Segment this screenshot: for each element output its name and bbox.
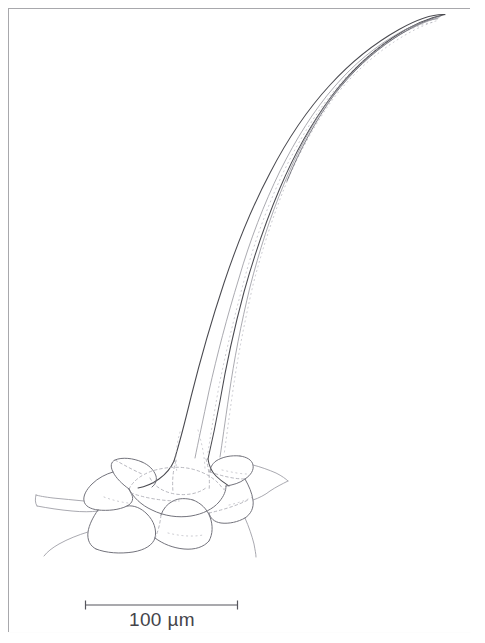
- epidermal-cell-lower-left-floor: [96, 538, 155, 553]
- trichome-line-drawing: [0, 0, 485, 643]
- epidermal-cell-right-margin: [245, 518, 256, 557]
- figure-plate: 100 µm: [0, 0, 485, 643]
- epidermal-cell-right-lower-floor: [209, 513, 245, 523]
- trichome-shaft: [174, 15, 445, 461]
- epidermal-cell-lower-left-right: [127, 506, 156, 538]
- epidermal-hidden-wall-upper-left: [115, 460, 142, 474]
- shaft-lumen-left: [195, 19, 438, 458]
- epidermal-cell-center-lower: [155, 538, 209, 549]
- base-stipple-right: [198, 430, 205, 471]
- shaft-outer-wall-left: [174, 15, 445, 461]
- epidermal-cell-bottom-left: [44, 532, 88, 556]
- epidermal-cell-center-lower-right: [193, 500, 212, 541]
- shaft-stipple-outer: [208, 23, 432, 454]
- base-shaft-hidden-left: [173, 461, 176, 492]
- epidermal-cell-far-left-top: [36, 495, 84, 501]
- epidermal-stipple-right-lower: [229, 496, 255, 505]
- epidermal-cell-upper-left: [111, 458, 142, 489]
- shaft-lumen-right: [220, 18, 439, 457]
- epidermal-cell-far-right-bottom: [253, 481, 288, 500]
- epidermal-stipple-right: [222, 470, 248, 474]
- epidermal-cell-far-left-edge: [35, 495, 37, 506]
- epidermal-cell-lower-left: [88, 510, 98, 549]
- scale-bar-label: 100 µm: [85, 609, 239, 631]
- epidermal-cell-rosette: [35, 456, 288, 557]
- epidermal-cell-left-lower: [98, 489, 133, 510]
- shaft-stipple-inner: [224, 21, 436, 455]
- epidermal-cell-right-lower: [245, 479, 253, 518]
- epidermal-stipple-left: [104, 497, 128, 503]
- base-socket-collar: [150, 478, 207, 495]
- epidermal-cell-center-lower-top: [161, 499, 193, 515]
- epidermal-cell-far-right-top: [253, 465, 288, 481]
- epidermal-cell-right-top: [210, 456, 240, 472]
- epidermal-cell-right: [226, 456, 253, 486]
- shaft-outer-wall-right: [208, 15, 445, 459]
- base-flare-left: [138, 461, 174, 488]
- shaft-wall-ridge: [287, 16, 441, 181]
- epidermal-stipple-center: [168, 533, 203, 536]
- epidermal-hidden-wall-left: [131, 493, 179, 501]
- epidermal-cell-left: [84, 472, 113, 510]
